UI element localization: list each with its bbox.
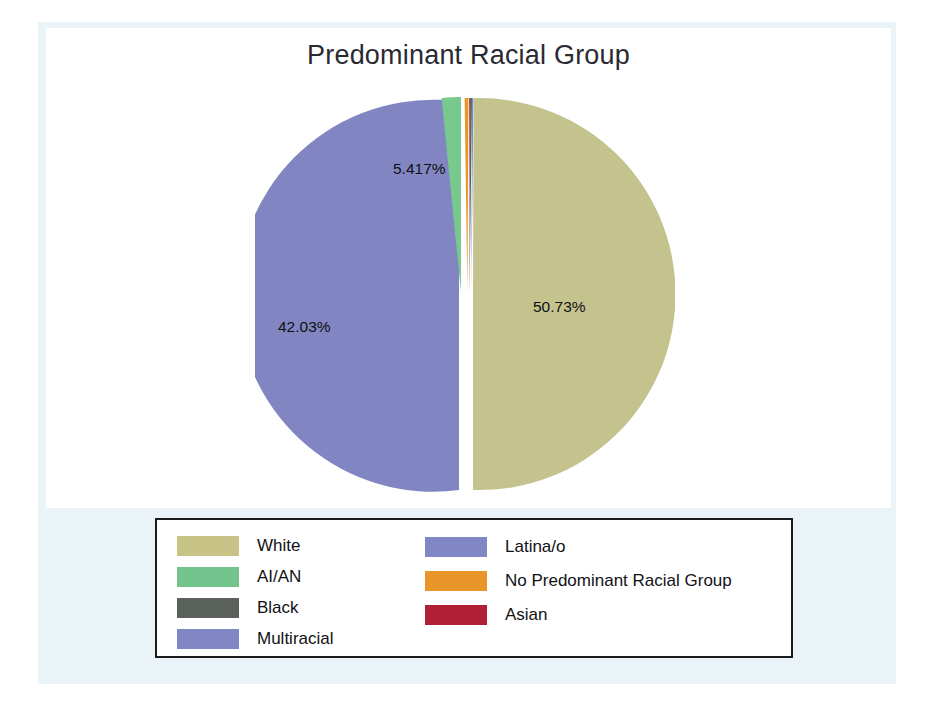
pie-chart-svg bbox=[255, 88, 675, 500]
legend-swatch-aian bbox=[177, 567, 239, 587]
legend-item-black[interactable]: Black bbox=[177, 594, 425, 621]
legend-item-white[interactable]: White bbox=[177, 532, 425, 559]
legend-swatch-multiracial bbox=[177, 629, 239, 649]
legend-swatch-white bbox=[177, 536, 239, 556]
legend-swatch-black bbox=[177, 598, 239, 618]
pie-label-multiracial: 42.03% bbox=[278, 318, 331, 336]
pie-slice-no-predominant[interactable] bbox=[465, 98, 469, 293]
legend-column-right: Latina/o No Predominant Racial Group Asi… bbox=[425, 532, 775, 656]
legend-item-multiracial[interactable]: Multiracial bbox=[177, 625, 425, 652]
pie-label-white: 50.73% bbox=[533, 298, 586, 316]
legend-label-latina: Latina/o bbox=[505, 537, 566, 557]
legend-column-left: White AI/AN Black Multiracial bbox=[177, 532, 425, 656]
page-title: Predominant Racial Group bbox=[46, 40, 891, 71]
legend-label-multiracial: Multiracial bbox=[257, 629, 334, 649]
legend-label-aian: AI/AN bbox=[257, 567, 301, 587]
pie-slice-multiracial-body[interactable] bbox=[255, 100, 459, 492]
legend-item-aian[interactable]: AI/AN bbox=[177, 563, 425, 590]
pie-slice-white[interactable] bbox=[473, 98, 675, 490]
legend-swatch-latina bbox=[425, 537, 487, 557]
legend-label-white: White bbox=[257, 536, 300, 556]
legend-label-black: Black bbox=[257, 598, 299, 618]
legend-item-latina[interactable]: Latina/o bbox=[425, 532, 775, 562]
legend: White AI/AN Black Multiracial Latina/o bbox=[155, 518, 793, 658]
legend-label-asian: Asian bbox=[505, 605, 548, 625]
legend-item-no-predominant[interactable]: No Predominant Racial Group bbox=[425, 566, 775, 596]
pie-chart bbox=[255, 88, 675, 500]
legend-swatch-asian bbox=[425, 605, 487, 625]
pie-label-aian: 5.417% bbox=[393, 160, 446, 178]
legend-label-no-predominant: No Predominant Racial Group bbox=[505, 571, 732, 591]
legend-item-asian[interactable]: Asian bbox=[425, 600, 775, 630]
legend-swatch-no-predominant bbox=[425, 571, 487, 591]
